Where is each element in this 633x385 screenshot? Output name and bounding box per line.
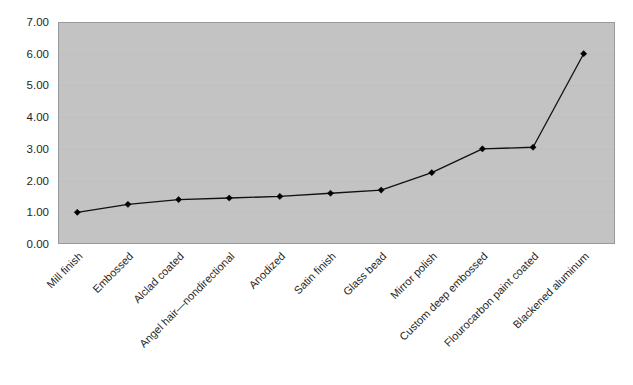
y-axis-tick-label: 2.00 <box>27 175 49 187</box>
x-axis-tick-label: Custom deep embossed <box>397 250 490 343</box>
y-axis-tick-labels: 0.001.002.003.004.005.006.007.00 <box>27 16 49 250</box>
y-axis-tick-label: 5.00 <box>27 79 49 91</box>
x-axis-tick-label: Mill finish <box>44 250 84 290</box>
y-axis-tick-label: 3.00 <box>27 143 49 155</box>
line-chart: 0.001.002.003.004.005.006.007.00 Mill fi… <box>0 0 633 385</box>
y-axis-tick-label: 1.00 <box>27 206 49 218</box>
plot-area-background <box>58 22 615 244</box>
x-axis-tick-label: Embossed <box>90 250 135 295</box>
chart-canvas: 0.001.002.003.004.005.006.007.00 Mill fi… <box>0 0 633 385</box>
x-axis-tick-label: Mirror polish <box>388 250 439 301</box>
x-axis-tick-labels: Mill finishEmbossedAlclad coatedAngel ha… <box>44 250 591 350</box>
x-axis-tick-label: Flourocarbon paint coated <box>442 250 541 349</box>
x-axis-tick-label: Satin finish <box>291 250 338 297</box>
x-axis-tick-label: Alclad coated <box>131 250 186 305</box>
x-axis-tick-label: Angel hair—nondirectional <box>137 250 237 350</box>
x-axis-tick-label: Anodized <box>246 250 287 291</box>
y-axis-tick-label: 4.00 <box>27 111 49 123</box>
x-axis-tick-label: Glass bead <box>341 250 389 298</box>
y-axis-tick-label: 0.00 <box>27 238 49 250</box>
y-axis-tick-label: 7.00 <box>27 16 49 28</box>
y-axis-tick-label: 6.00 <box>27 48 49 60</box>
